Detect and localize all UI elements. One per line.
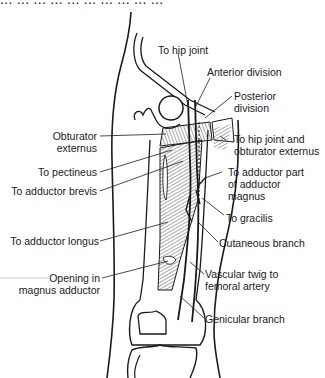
- femur-left-edge: [140, 140, 150, 300]
- label-to-pectineus: To pectineus: [38, 166, 97, 178]
- label-posterior-division-1: Posterior: [234, 90, 276, 102]
- leader-gracilis: [202, 198, 224, 215]
- label-to-adductor-part-3: magnus: [228, 190, 265, 202]
- leader-adductor-part: [205, 172, 222, 178]
- thigh-outline-left: [107, 12, 131, 378]
- leader-anterior-division: [195, 78, 210, 108]
- label-obturator-externus-2: externus: [57, 142, 97, 154]
- label-to-gracilis: To gracilis: [226, 212, 273, 224]
- leader-obturator-externus: [100, 134, 166, 136]
- femoral-head: [159, 96, 183, 120]
- label-opening-1: Opening in: [49, 272, 100, 284]
- leader-cutaneous: [198, 222, 218, 242]
- label-hip-joint-and-obt-1: To hip joint and: [234, 133, 305, 145]
- label-genicular-branch: Genicular branch: [205, 313, 285, 325]
- label-obturator-externus-1: Obturator: [53, 130, 97, 142]
- label-to-adductor-part-1: To adductor part: [228, 166, 304, 178]
- label-to-adductor-part-2: of adductor: [228, 178, 281, 190]
- label-opening-2: magnus adductor: [19, 284, 100, 296]
- tibia-plateau: [132, 345, 197, 378]
- label-anterior-division: Anterior division: [207, 66, 282, 78]
- leader-to-hip-joint: [178, 53, 188, 106]
- label-vascular-twig-2: femoral artery: [205, 280, 270, 292]
- leader-adductor-longus: [100, 222, 168, 241]
- fibula: [135, 355, 140, 378]
- leader-posterior-division: [205, 96, 232, 118]
- anatomy-diagram: ... ... ... ... ... ... ... ... ... ...: [0, 0, 325, 378]
- label-to-hip-joint: To hip joint: [158, 44, 208, 56]
- label-to-adductor-brevis: To adductor brevis: [11, 185, 97, 197]
- label-cutaneous-branch: Cutaneous branch: [219, 237, 305, 249]
- thigh-outline-right: [214, 120, 239, 378]
- patella: [138, 311, 166, 334]
- label-vascular-twig-1: Vascular twig to: [205, 268, 278, 280]
- label-to-adductor-longus: To adductor longus: [10, 235, 99, 247]
- obturator-externus-muscle: [160, 122, 212, 146]
- label-hip-joint-and-obt-2: obturator externus: [234, 145, 319, 157]
- label-posterior-division-2: division: [234, 102, 269, 114]
